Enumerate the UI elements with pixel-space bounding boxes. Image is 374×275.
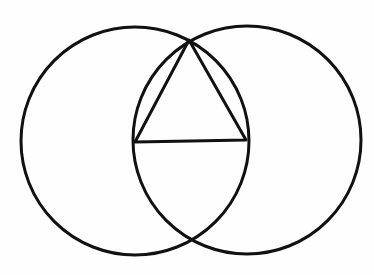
diagram-canvas [0, 0, 374, 275]
equilateral-triangle [135, 40, 246, 142]
vesica-piscis-diagram [0, 0, 374, 275]
